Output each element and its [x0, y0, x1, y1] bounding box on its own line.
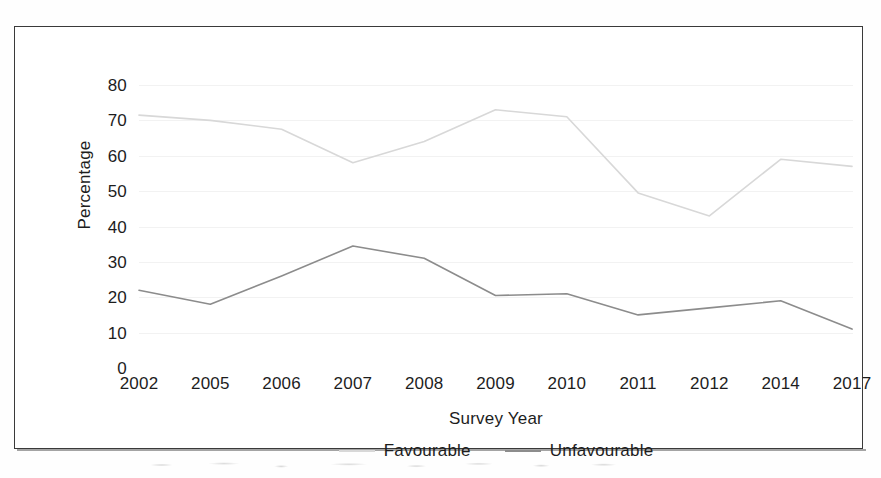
y-tick-label: 20: [108, 289, 127, 306]
legend-line-swatch: [505, 450, 541, 452]
chart-frame: Percentage 80706050403020100 20022005200…: [14, 26, 863, 449]
y-tick-label: 60: [108, 148, 127, 165]
y-tick-label: 30: [108, 254, 127, 271]
series-lines: [139, 85, 853, 368]
y-tick-label: 50: [108, 183, 127, 200]
x-tick-label: 2008: [384, 375, 464, 392]
x-tick-label: 2017: [812, 375, 881, 392]
x-tick-label: 2014: [741, 375, 821, 392]
series-line: [139, 246, 852, 329]
x-axis-title: Survey Year: [139, 409, 853, 429]
x-tick-label: 2007: [313, 375, 393, 392]
y-tick-label: 10: [108, 325, 127, 342]
y-axis-tick-labels: 80706050403020100: [83, 85, 127, 368]
y-tick-label: 40: [108, 219, 127, 236]
x-tick-label: 2005: [170, 375, 250, 392]
legend-line-swatch: [339, 450, 375, 452]
y-tick-label: 70: [108, 112, 127, 129]
x-tick-label: 2002: [99, 375, 179, 392]
y-tick-label: 80: [108, 77, 127, 94]
x-tick-label: 2009: [456, 375, 536, 392]
series-line: [139, 110, 852, 216]
scan-artifact-noise: [120, 458, 640, 472]
x-tick-label: 2010: [527, 375, 607, 392]
plot-area: [139, 85, 853, 368]
x-tick-label: 2012: [669, 375, 749, 392]
x-tick-label: 2011: [598, 375, 678, 392]
scanned-page: Percentage 80706050403020100 20022005200…: [0, 0, 881, 478]
x-axis-tick-labels: 2002200520062007200820092010201120122014…: [139, 375, 853, 399]
x-tick-label: 2006: [242, 375, 322, 392]
